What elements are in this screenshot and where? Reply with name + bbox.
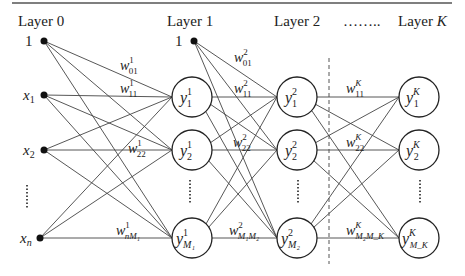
layer-2-label: Layer 2 [274, 13, 320, 29]
layer-1-label: Layer 1 [167, 13, 213, 29]
layer2-node-1 [277, 77, 317, 117]
input-bias-dot [41, 38, 48, 45]
layer1-bias-dot [191, 38, 198, 45]
layer-k-label: Layer K [398, 13, 448, 29]
neural-network-diagram: Layer 0 Layer 1 Layer 2 …….. Layer K [0, 0, 465, 276]
weight-label-w1-01: w101 [120, 55, 138, 76]
layer2-node-2-label: y22 [283, 139, 297, 162]
input-layer: 1 x1 x2 xn [19, 33, 48, 248]
connections-layer0-to-layer1 [40, 41, 172, 238]
layer-k: yK1 yK2 yKM_K [399, 77, 439, 258]
weight-label-w2-01: w201 [234, 47, 252, 68]
layer1-bias-label: 1 [175, 33, 183, 49]
input-x2-dot [41, 147, 48, 154]
input-x2-label: x2 [22, 142, 35, 160]
layer-2: y21 y22 y2M₂ [277, 77, 317, 258]
input-bias-label: 1 [25, 33, 33, 49]
layer1-node-2-label: y12 [178, 139, 192, 162]
layer1-node-2 [172, 130, 212, 170]
layer2-node-1-label: y21 [283, 86, 297, 109]
layer-ellipsis-label: …….. [343, 13, 381, 29]
weight-label-w1-22: w122 [128, 138, 146, 159]
connections-layer2-to-layerK [311, 97, 399, 238]
layerk-node-2 [399, 130, 439, 170]
layerk-node-1 [399, 77, 439, 117]
weight-label-w1-nm1: w1nM₁ [116, 220, 140, 241]
layerk-node-1-label: yK1 [404, 86, 421, 109]
weight-label-w2-11: w211 [234, 78, 252, 99]
layer1-node-1 [172, 77, 212, 117]
weight-label-w1-11: w111 [120, 78, 137, 99]
input-x1-dot [41, 92, 48, 99]
weight-label-w2-m1m2: w2M₁M₂ [229, 220, 259, 241]
layer-1: 1 y11 y12 y1M₁ [172, 33, 212, 258]
input-xn-dot [37, 235, 44, 242]
weight-label-wk-11: wK11 [346, 78, 364, 99]
input-x1-label: x1 [22, 87, 35, 105]
layerk-node-2-label: yK2 [404, 139, 421, 162]
layer1-node-1-label: y11 [178, 86, 192, 109]
weight-label-wk-22: wK22 [346, 132, 364, 153]
layer2-node-2 [277, 130, 317, 170]
weight-label-w2-22: w222 [233, 132, 251, 153]
input-xn-label: xn [19, 230, 32, 248]
layer-0-label: Layer 0 [18, 13, 64, 29]
weight-label-wk-m2mk: wKM₂M_K [346, 220, 385, 241]
